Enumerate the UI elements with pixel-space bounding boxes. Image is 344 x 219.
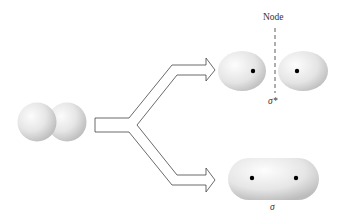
nucleus-left xyxy=(251,69,255,73)
bonding-orbital xyxy=(228,158,319,200)
antibonding-lobe-right xyxy=(278,51,328,91)
mo-diagram: Node σ* σ xyxy=(0,0,344,219)
nucleus-right xyxy=(295,69,299,73)
arrow-outline xyxy=(95,58,215,192)
antibonding-lobe-left xyxy=(218,51,266,91)
sigma-label: σ xyxy=(270,203,275,213)
diagram-canvas xyxy=(0,0,344,219)
nucleus-right xyxy=(294,176,298,180)
atomic-orbitals xyxy=(18,103,87,142)
sigma-star-label: σ* xyxy=(268,97,277,107)
s-orbital-left xyxy=(18,103,57,142)
node-label: Node xyxy=(263,13,284,23)
antibonding-orbital xyxy=(218,28,328,93)
nucleus-left xyxy=(250,176,254,180)
bonding-lobe xyxy=(228,158,319,200)
branch-arrow xyxy=(95,58,215,192)
